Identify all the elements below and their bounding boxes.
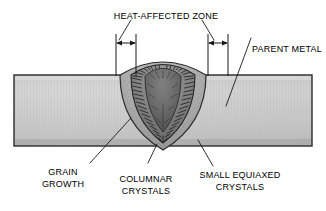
- leader-columnar: [148, 144, 157, 163]
- figure-canvas: HEAT-AFFECTED ZONE PARENT METAL GRAIN GR…: [0, 0, 326, 211]
- label-grain-growth-line2: GROWTH: [42, 179, 84, 190]
- leader-haz-left: [119, 20, 131, 40]
- label-equiaxed-line2: CRYSTALS: [216, 182, 264, 193]
- label-grain-growth-line1: GRAIN: [48, 167, 78, 178]
- label-equiaxed-line1: SMALL EQUIAXED: [200, 170, 281, 181]
- label-columnar-line2: CRYSTALS: [122, 186, 170, 197]
- haz-width-right: [208, 34, 228, 76]
- label-heat-affected-zone: HEAT-AFFECTED ZONE: [114, 11, 218, 22]
- label-parent-metal: PARENT METAL: [252, 44, 322, 55]
- label-columnar-line1: COLUMNAR: [119, 174, 172, 185]
